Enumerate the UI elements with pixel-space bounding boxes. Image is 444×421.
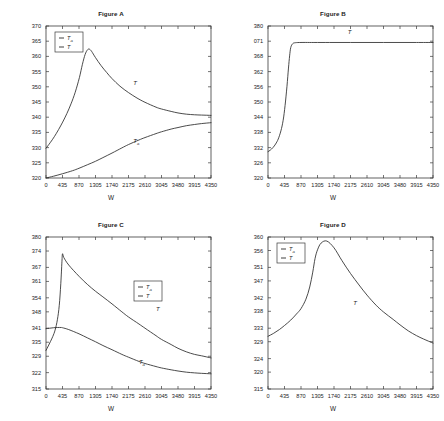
x-tick-label: 1305 xyxy=(311,393,323,399)
legend-entry-label: T xyxy=(67,44,71,50)
y-tick-label: 360 xyxy=(32,53,41,59)
y-tick-label: 326 xyxy=(254,160,263,166)
x-tick-label: 3480 xyxy=(172,182,184,188)
y-tick-label: 315 xyxy=(254,386,263,392)
legend-entry-label: T xyxy=(289,255,293,261)
x-tick-label: 2610 xyxy=(361,393,373,399)
x-tick-label: 1740 xyxy=(106,182,118,188)
y-tick-label: 367 xyxy=(32,264,41,270)
svg-text:T: T xyxy=(348,29,353,35)
x-tick-label: 4350 xyxy=(205,182,217,188)
y-tick-label: 338 xyxy=(254,129,263,135)
plot-area: 3203253303353403453503553603653700435870… xyxy=(0,0,222,210)
plot-area: 3203263323383443503563623680713800435870… xyxy=(222,0,444,210)
svg-text:T: T xyxy=(156,306,161,312)
y-tick-label: 356 xyxy=(254,84,263,90)
plot-frame xyxy=(46,237,211,389)
y-tick-label: 374 xyxy=(32,248,41,254)
y-tick-label: 322 xyxy=(32,370,41,376)
y-tick-label: 350 xyxy=(254,99,263,105)
y-tick-label: 329 xyxy=(254,339,263,345)
y-tick-label: 345 xyxy=(32,99,41,105)
plot-area: 3153223293353413483543613673743800435870… xyxy=(0,211,222,421)
x-tick-label: 870 xyxy=(74,182,83,188)
x-tick-label: 4350 xyxy=(427,182,439,188)
y-tick-label: 361 xyxy=(32,278,41,284)
y-tick-label: 368 xyxy=(254,53,263,59)
y-tick-label: 320 xyxy=(254,369,263,375)
x-tick-label: 435 xyxy=(280,393,289,399)
x-tick-label: 2610 xyxy=(361,182,373,188)
y-tick-label: 348 xyxy=(32,309,41,315)
x-tick-label: 435 xyxy=(58,393,67,399)
x-tick-label: 3045 xyxy=(155,182,167,188)
y-tick-label: 338 xyxy=(254,308,263,314)
plot-frame xyxy=(268,26,433,178)
y-tick-label: 320 xyxy=(32,175,41,181)
x-tick-label: 2610 xyxy=(139,182,151,188)
y-tick-label: 325 xyxy=(32,160,41,166)
x-tick-label: 1740 xyxy=(328,182,340,188)
x-tick-label: 3045 xyxy=(377,393,389,399)
series-annotation: T xyxy=(348,29,353,35)
y-tick-label: 315 xyxy=(32,386,41,392)
x-tick-label: 3045 xyxy=(155,393,167,399)
y-tick-label: 370 xyxy=(32,23,41,29)
x-tick-label: 3480 xyxy=(394,182,406,188)
legend: TaT xyxy=(134,281,162,301)
x-tick-label: 870 xyxy=(74,393,83,399)
x-axis-label: W xyxy=(222,405,444,412)
y-tick-label: 360 xyxy=(254,234,263,240)
y-tick-label: 365 xyxy=(32,38,41,44)
x-tick-label: 4350 xyxy=(205,393,217,399)
figure-grid: Figure A32032533033534034535035536036537… xyxy=(0,0,444,421)
x-tick-label: 870 xyxy=(296,182,305,188)
x-tick-label: 0 xyxy=(266,393,269,399)
series-annotation: T xyxy=(133,80,138,86)
series-line-Ta xyxy=(46,327,211,373)
x-tick-label: 1305 xyxy=(89,182,101,188)
y-tick-label: 329 xyxy=(32,353,41,359)
svg-text:T: T xyxy=(353,300,358,306)
x-tick-label: 1305 xyxy=(311,182,323,188)
series-line-T xyxy=(268,42,433,151)
y-tick-label: 342 xyxy=(254,295,263,301)
svg-text:Ta: Ta xyxy=(133,138,140,146)
x-tick-label: 4350 xyxy=(427,393,439,399)
series-line-T xyxy=(46,254,211,358)
y-tick-label: 333 xyxy=(254,325,263,331)
x-tick-label: 1305 xyxy=(89,393,101,399)
series-line-Ta xyxy=(46,123,211,178)
x-tick-label: 2175 xyxy=(122,182,134,188)
x-tick-label: 3480 xyxy=(394,393,406,399)
figure-panel-c: Figure C31532232933534134835436136737438… xyxy=(0,211,222,421)
y-tick-label: 340 xyxy=(32,114,41,120)
series-line-T xyxy=(46,49,211,148)
y-tick-label: 335 xyxy=(32,129,41,135)
x-tick-label: 2175 xyxy=(122,393,134,399)
y-tick-label: 324 xyxy=(254,356,263,362)
x-tick-label: 3915 xyxy=(410,182,422,188)
y-tick-label: 380 xyxy=(32,234,41,240)
y-tick-label: 335 xyxy=(32,339,41,345)
legend: TaT xyxy=(277,243,305,263)
x-tick-label: 870 xyxy=(296,393,305,399)
x-tick-label: 3045 xyxy=(377,182,389,188)
y-tick-label: 347 xyxy=(254,278,263,284)
svg-text:T: T xyxy=(133,80,138,86)
figure-panel-a: Figure A32032533033534034535035536036537… xyxy=(0,0,222,210)
x-tick-label: 2175 xyxy=(344,182,356,188)
y-tick-label: 071 xyxy=(254,38,263,44)
y-tick-label: 330 xyxy=(32,145,41,151)
x-tick-label: 0 xyxy=(266,182,269,188)
x-tick-label: 3480 xyxy=(172,393,184,399)
x-tick-label: 3915 xyxy=(410,393,422,399)
x-tick-label: 3915 xyxy=(188,393,200,399)
y-tick-label: 344 xyxy=(254,114,263,120)
x-tick-label: 0 xyxy=(44,182,47,188)
legend-entry-label: T xyxy=(146,293,150,299)
svg-text:Ta: Ta xyxy=(139,359,146,367)
y-tick-label: 341 xyxy=(32,325,41,331)
x-tick-label: 2610 xyxy=(139,393,151,399)
y-tick-label: 350 xyxy=(32,84,41,90)
